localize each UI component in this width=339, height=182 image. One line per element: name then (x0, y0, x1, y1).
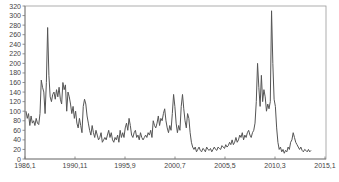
y-tick-label: 120 (9, 98, 21, 105)
x-tick-label: 2015,1 (314, 162, 336, 169)
y-tick-label: 20 (13, 146, 21, 153)
plot-frame (25, 6, 326, 159)
x-axis: 1986,11990,111995,92000,72005,52010,3201… (14, 157, 336, 170)
data-series-line (26, 11, 311, 153)
y-tick-label: 100 (9, 108, 21, 115)
x-tick-label: 2000,7 (164, 162, 186, 169)
x-tick-label: 1986,1 (14, 162, 36, 169)
y-tick-label: 300 (9, 12, 21, 19)
y-tick-label: 180 (9, 69, 21, 76)
y-tick-label: 280 (9, 22, 21, 29)
y-tick-label: 320 (9, 3, 21, 10)
x-tick-label: 1995,9 (114, 162, 136, 169)
y-axis: 0204060801001201401601802002202402602803… (9, 3, 25, 163)
x-tick-label: 2005,5 (214, 162, 236, 169)
y-tick-label: 220 (9, 50, 21, 57)
y-tick-label: 80 (13, 117, 21, 124)
y-tick-label: 40 (13, 136, 21, 143)
x-tick-label: 1990,11 (63, 162, 88, 169)
y-tick-label: 60 (13, 127, 21, 134)
y-tick-label: 240 (9, 41, 21, 48)
line-chart: 0204060801001201401601802002202402602803… (0, 0, 339, 182)
y-tick-label: 200 (9, 60, 21, 67)
x-tick-label: 2010,3 (264, 162, 286, 169)
y-tick-label: 160 (9, 79, 21, 86)
y-tick-label: 140 (9, 89, 21, 96)
y-tick-label: 260 (9, 31, 21, 38)
